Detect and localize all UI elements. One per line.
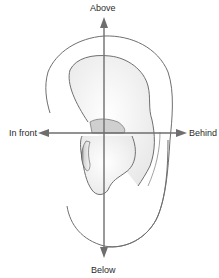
arrow-up-icon [100, 17, 108, 28]
label-below: Below [91, 265, 116, 275]
ear-orientation-diagram: Above Below In front Behind [0, 0, 219, 278]
arrow-left-icon [38, 129, 49, 137]
arrow-down-icon [100, 247, 108, 258]
label-in-front: In front [9, 128, 37, 138]
ear-illustration [0, 0, 219, 278]
arrow-right-icon [176, 129, 187, 137]
label-behind: Behind [189, 128, 217, 138]
label-above: Above [90, 3, 116, 13]
